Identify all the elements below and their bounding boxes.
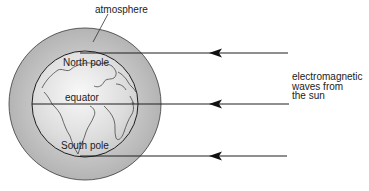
- south-pole-label: South pole: [61, 141, 109, 151]
- waves-caption: electromagnetic waves from the sun: [292, 72, 363, 101]
- caption-line: the sun: [292, 91, 363, 101]
- atmosphere-label: atmosphere: [95, 5, 148, 15]
- equator-label: equator: [65, 93, 99, 103]
- north-pole-label: North pole: [63, 58, 109, 68]
